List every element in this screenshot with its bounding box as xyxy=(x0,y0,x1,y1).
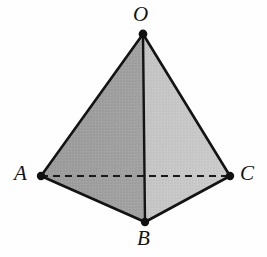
vertex-dot-A xyxy=(37,172,45,180)
vertex-label-A: A xyxy=(14,163,27,184)
vertex-label-B: B xyxy=(137,228,150,249)
vertex-label-O: O xyxy=(133,4,148,25)
vertex-dot-O xyxy=(139,30,148,39)
vertex-dot-C xyxy=(226,172,234,180)
tetrahedron-drawing xyxy=(0,0,267,257)
vertex-dot-B xyxy=(141,218,149,226)
geometry-figure-tetrahedron: O A C B xyxy=(0,0,267,257)
vertex-label-C: C xyxy=(240,163,254,184)
